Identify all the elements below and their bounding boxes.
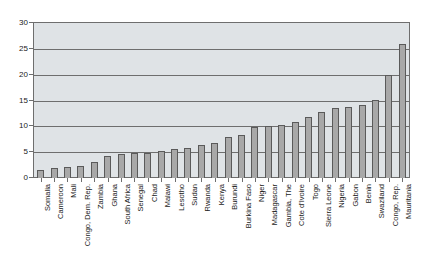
x-axis-tick-mark <box>362 178 363 182</box>
x-axis-tick-mark <box>349 178 350 182</box>
x-axis-tick-mark <box>81 178 82 182</box>
bar-slot <box>288 23 301 178</box>
x-axis-tick-mark <box>309 178 310 182</box>
bar-slot <box>101 23 114 178</box>
x-axis-tick-mark <box>375 178 376 182</box>
bar <box>104 156 111 178</box>
bar <box>292 122 299 178</box>
bar <box>318 112 325 178</box>
x-axis-tick-mark <box>268 178 269 182</box>
x-axis-tick-label: Mauritania <box>405 184 413 219</box>
bar <box>37 170 44 178</box>
x-axis-label-slot: Rwanda <box>195 178 208 278</box>
bar-slot <box>34 23 47 178</box>
x-axis-label-slot: Burundi <box>221 178 234 278</box>
bar-slot <box>262 23 275 178</box>
x-axis-label-slot: Congo, Rep. <box>382 178 395 278</box>
x-axis-tick-mark <box>134 178 135 182</box>
x-axis-tick-mark <box>255 178 256 182</box>
bar <box>345 107 352 178</box>
y-axis-tick-label: 20 <box>0 70 33 80</box>
x-axis-tick-mark <box>94 178 95 182</box>
bar-slot <box>302 23 315 178</box>
x-axis-tick-mark <box>282 178 283 182</box>
bar <box>131 153 138 178</box>
bar <box>399 44 406 178</box>
y-axis: 051015202530 <box>0 22 33 179</box>
x-axis-label-slot: Zambia <box>88 178 101 278</box>
bar-slot <box>275 23 288 178</box>
x-axis-label-slot: Togo <box>302 178 315 278</box>
bar <box>385 75 392 178</box>
x-axis-label-slot: Kenya <box>208 178 221 278</box>
x-axis-label-slot: Gambia, The <box>275 178 288 278</box>
bar-slot <box>235 23 248 178</box>
x-axis-label-slot: Madagascar <box>262 178 275 278</box>
bar-slot <box>208 23 221 178</box>
x-axis-tick-mark <box>201 178 202 182</box>
x-axis-label-slot: Sudan <box>181 178 194 278</box>
x-axis-label-slot: Congo, Dem. Rep. <box>74 178 87 278</box>
bar <box>251 127 258 178</box>
y-axis-tick-label: 15 <box>0 96 33 106</box>
bar-slot <box>369 23 382 178</box>
x-axis-tick-mark <box>242 178 243 182</box>
bar <box>118 154 125 178</box>
x-axis-label-slot: Mali <box>61 178 74 278</box>
bar-slot <box>315 23 328 178</box>
x-axis-label-slot: Lesotho <box>168 178 181 278</box>
x-axis-tick-mark <box>161 178 162 182</box>
bar-slot <box>248 23 261 178</box>
bar-slot <box>114 23 127 178</box>
bar <box>278 125 285 178</box>
bar-slot <box>382 23 395 178</box>
y-axis-tick-label: 10 <box>0 121 33 131</box>
x-axis-label-slot: Senegal <box>128 178 141 278</box>
bar-slot <box>355 23 368 178</box>
bar-slot <box>195 23 208 178</box>
x-axis-tick-mark <box>108 178 109 182</box>
x-axis-tick-mark <box>335 178 336 182</box>
bar <box>77 166 84 178</box>
bar-slot <box>47 23 60 178</box>
x-axis-tick-mark <box>295 178 296 182</box>
bar <box>372 100 379 178</box>
bar-slot <box>221 23 234 178</box>
x-axis-tick-mark <box>188 178 189 182</box>
bar-slot <box>155 23 168 178</box>
x-axis-tick-mark <box>54 178 55 182</box>
bar <box>51 168 58 178</box>
x-axis-label-slot: South Africa <box>114 178 127 278</box>
bar-slot <box>181 23 194 178</box>
bar-slot <box>168 23 181 178</box>
bar-slot <box>128 23 141 178</box>
bar <box>265 126 272 178</box>
x-axis-tick-mark <box>215 178 216 182</box>
x-axis-label-slot: Nigeria <box>329 178 342 278</box>
bar <box>238 135 245 178</box>
x-axis-tick-mark <box>402 178 403 182</box>
bar <box>225 137 232 178</box>
bar-slot <box>61 23 74 178</box>
x-axis-label-slot: Chad <box>141 178 154 278</box>
bar-slot <box>141 23 154 178</box>
x-axis-label-slot: Ghana <box>101 178 114 278</box>
bar <box>171 149 178 178</box>
bar-slot <box>329 23 342 178</box>
x-axis-tick-mark <box>175 178 176 182</box>
x-axis-label-slot: Mauritania <box>396 178 409 278</box>
x-axis-label-slot: Niger <box>248 178 261 278</box>
x-axis-label-slot: Malawi <box>155 178 168 278</box>
y-axis-tick-label: 5 <box>0 147 33 157</box>
x-axis-label-slot: Cameroon <box>47 178 60 278</box>
x-axis-label-slot: Gabon <box>342 178 355 278</box>
x-axis-label-slot: Sierra Leone <box>315 178 328 278</box>
bar-slot <box>74 23 87 178</box>
y-axis-tick-label: 30 <box>0 18 33 28</box>
bar <box>359 105 366 178</box>
bar <box>211 143 218 178</box>
bar <box>305 117 312 178</box>
y-axis-tick-label: 25 <box>0 44 33 54</box>
x-axis-tick-mark <box>121 178 122 182</box>
x-axis-tick-mark <box>228 178 229 182</box>
